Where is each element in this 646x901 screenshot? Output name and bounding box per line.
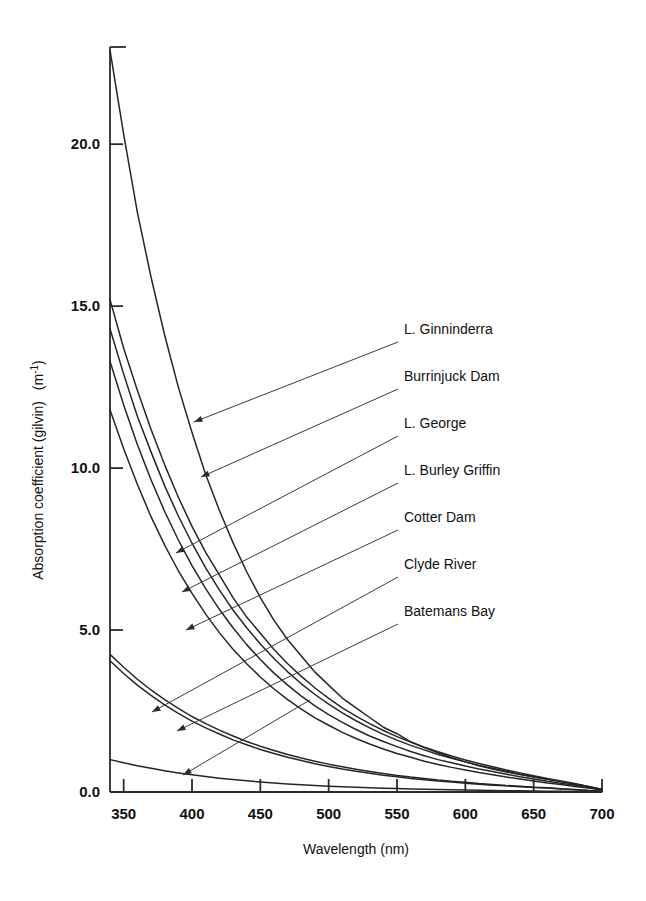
y-tick-label: 15.0 xyxy=(71,297,100,314)
y-axis-title-main: Absorption coefficient (gilvin) xyxy=(30,401,46,580)
y-axis-ticks: 0.05.010.015.020.0 xyxy=(71,135,123,800)
x-tick-label: 600 xyxy=(453,805,478,822)
x-tick-label: 450 xyxy=(248,805,273,822)
series-leader-line xyxy=(186,530,398,630)
leader-arrowhead-icon xyxy=(194,416,203,422)
series-label-burrinjuck-dam: Burrinjuck Dam xyxy=(404,368,500,384)
y-tick-label: 20.0 xyxy=(71,135,100,152)
y-tick-label: 0.0 xyxy=(79,783,100,800)
series-label-l-ginninderra: L. Ginninderra xyxy=(404,321,493,337)
series-curve xyxy=(110,50,602,789)
y-axis-title-unit-close: ) xyxy=(30,360,46,365)
series-leader-line xyxy=(183,700,310,775)
series-label-l-burley-griffin: L. Burley Griffin xyxy=(404,462,500,478)
series-label-batemans-bay: Batemans Bay xyxy=(404,603,495,619)
series-leader-line xyxy=(152,577,398,712)
series-curve xyxy=(110,361,602,790)
absorption-spectra-chart: 0.05.010.015.020.0 350400450500550600650… xyxy=(0,0,646,901)
y-tick-label: 10.0 xyxy=(71,459,100,476)
series-leader-line xyxy=(194,342,398,422)
y-axis-title: Absorption coefficient (gilvin) (m-1) xyxy=(29,360,46,580)
x-axis-ticks: 350400450500550600650700 xyxy=(111,779,614,822)
x-tick-label: 650 xyxy=(521,805,546,822)
x-tick-label: 350 xyxy=(111,805,136,822)
chart-figure: 0.05.010.015.020.0 350400450500550600650… xyxy=(0,0,646,901)
series-leader-line xyxy=(201,389,398,477)
leader-arrowhead-icon xyxy=(177,725,186,731)
data-series-group xyxy=(110,50,602,792)
leader-arrowhead-icon xyxy=(152,705,161,712)
x-tick-label: 500 xyxy=(316,805,341,822)
series-label-l-george: L. George xyxy=(404,415,466,431)
leader-arrowhead-icon xyxy=(186,624,195,630)
x-tick-label: 700 xyxy=(589,805,614,822)
series-label-cotter-dam: Cotter Dam xyxy=(404,509,476,525)
y-tick-label: 5.0 xyxy=(79,621,100,638)
y-axis-title-unit-open: (m xyxy=(30,374,46,390)
x-tick-label: 400 xyxy=(179,805,204,822)
x-tick-label: 550 xyxy=(384,805,409,822)
series-labels-group: L. GinninderraBurrinjuck DamL. GeorgeL. … xyxy=(404,321,500,619)
svg-text:Absorption coefficient (gilvin: Absorption coefficient (gilvin) (m-1) xyxy=(29,360,46,580)
leader-arrowhead-icon xyxy=(176,546,185,553)
series-curve xyxy=(110,329,602,790)
series-label-clyde-river: Clyde River xyxy=(404,556,477,572)
axis-lines xyxy=(110,47,602,792)
x-axis-title: Wavelength (nm) xyxy=(303,841,409,857)
leader-arrowhead-icon xyxy=(182,585,191,592)
series-leader-line xyxy=(176,436,398,553)
